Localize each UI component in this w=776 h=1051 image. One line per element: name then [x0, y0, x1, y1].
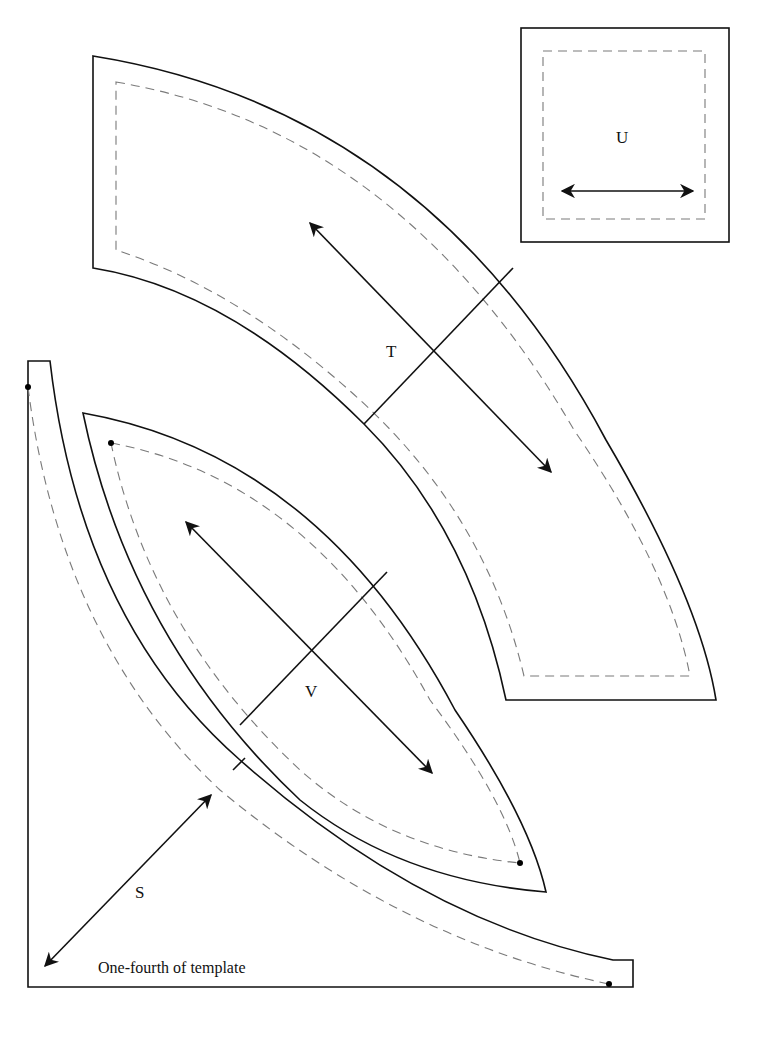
piece-t-seam-line: [116, 82, 690, 676]
piece-s: S One-fourth of template: [25, 361, 633, 987]
template-note: One-fourth of template: [98, 959, 246, 977]
piece-t-grainline-arrow: [310, 223, 551, 472]
piece-v-seam-dot: [517, 860, 523, 866]
piece-v-join-line: [240, 572, 387, 725]
piece-u: U: [521, 28, 729, 242]
piece-t-cut-line: [93, 56, 716, 700]
piece-v-label: V: [305, 682, 318, 701]
piece-v-grainline-arrow: [186, 522, 432, 773]
piece-s-grainline-arrow: [45, 795, 211, 966]
piece-s-seam-dot: [606, 981, 612, 987]
piece-s-cut-line: [28, 361, 633, 987]
piece-t: T: [93, 56, 716, 700]
piece-s-seam-dot: [25, 384, 31, 390]
piece-s-label: S: [135, 883, 144, 902]
piece-v-seam-dot: [108, 440, 114, 446]
piece-u-label: U: [616, 128, 628, 147]
template-diagram: U T V S One-fourth of template: [0, 0, 776, 1051]
piece-t-label: T: [386, 342, 397, 361]
